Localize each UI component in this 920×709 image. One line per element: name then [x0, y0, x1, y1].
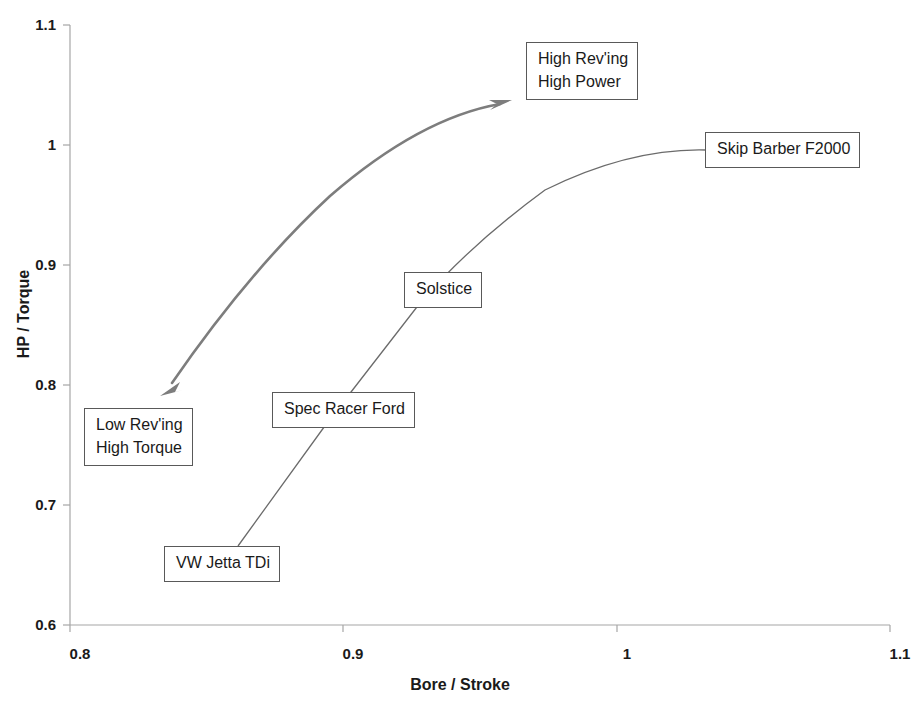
- callout-vw-jetta-tdi: VW Jetta TDi: [164, 546, 280, 582]
- direction-arrow-shaft: [172, 104, 500, 383]
- callout-solstice-label: Solstice: [416, 278, 472, 301]
- x-axis-title: Bore / Stroke: [0, 676, 920, 694]
- y-tick-label-1.1: 1.1: [8, 16, 56, 33]
- y-tick-label-0.7: 0.7: [8, 496, 56, 513]
- callout-vw-jetta-label: VW Jetta TDi: [176, 552, 270, 575]
- callout-low-rev-line2: High Torque: [96, 437, 183, 460]
- y-tick-label-0.6: 0.6: [8, 616, 56, 633]
- callout-low-revving-high-torque: Low Rev'ing High Torque: [84, 408, 193, 466]
- x-tick-label-0.9: 0.9: [333, 645, 373, 662]
- y-axis-title: HP / Torque: [15, 244, 33, 384]
- callout-spec-racer-ford: Spec Racer Ford: [272, 392, 415, 428]
- chart-container: 1.1 1 0.9 0.8 0.7 0.6 0.8 0.9 1 1.1 Bore…: [0, 0, 920, 709]
- callout-skip-barber-f2000: Skip Barber F2000: [705, 132, 860, 168]
- x-tick-label-1: 1: [607, 645, 647, 662]
- callout-spec-racer-ford-label: Spec Racer Ford: [284, 398, 405, 421]
- callout-high-revving-high-power: High Rev'ing High Power: [526, 42, 638, 100]
- callout-solstice: Solstice: [404, 272, 482, 308]
- y-tick-label-1: 1: [8, 136, 56, 153]
- callout-low-rev-line1: Low Rev'ing: [96, 414, 183, 437]
- callout-high-rev-line2: High Power: [538, 71, 628, 94]
- chart-canvas: [0, 0, 920, 709]
- data-trend-curve: [238, 150, 706, 546]
- x-tick-label-0.8: 0.8: [60, 645, 100, 662]
- callout-skip-barber-label: Skip Barber F2000: [717, 138, 850, 161]
- x-tick-label-1.1: 1.1: [880, 645, 920, 662]
- callout-high-rev-line1: High Rev'ing: [538, 48, 628, 71]
